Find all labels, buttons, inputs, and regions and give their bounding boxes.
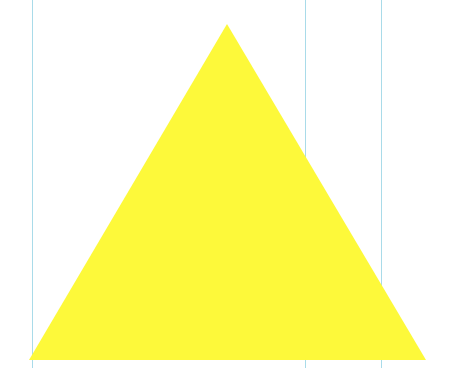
yellow-triangle <box>29 24 426 360</box>
drawing-canvas <box>0 0 457 368</box>
triangle-shape <box>0 0 457 368</box>
